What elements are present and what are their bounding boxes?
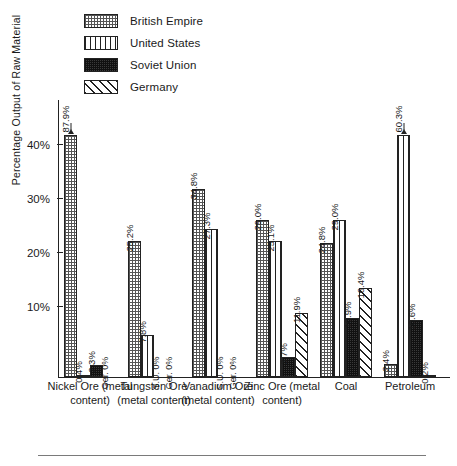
bar-be-5: 2.4% [384,364,397,377]
legend: British EmpireUnited StatesSoviet UnionG… [84,11,203,99]
bar-group-0: 87.9%0.4%2.3%Ger. 0%Nickel Ore (metal co… [64,100,116,377]
bar-group-2: 34.8%27.3%S.U. 0%Ger. 0%Vanadium Ore (me… [192,100,244,377]
bar-rect [205,229,218,377]
y-tick-label: 30% [27,193,50,205]
bar-ge-4: 16.4% [359,288,372,377]
bar-value-label: 25.1% [265,225,276,252]
bars: 25.2%7.8%S.U. 0%Ger. 0% [128,100,180,377]
footer-rule [38,455,426,456]
bar-us-5: 60.3% [397,135,410,377]
bar-rect [397,135,410,377]
bar-ge-5: 0.2% [423,376,436,377]
y-tick-label: 20% [27,247,50,259]
bar-value-label: 29.0% [252,204,263,231]
bar-ge-0: Ger. 0% [103,376,116,377]
legend-item-us: United States [84,33,203,52]
bar-rect [333,220,346,377]
bar-value-label: 11.9% [291,297,302,323]
bar-value-label: 3.7% [278,343,289,365]
legend-swatch-icon-ge [84,80,118,94]
y-tick-label: 40% [27,139,50,151]
y-tick-40%: 40% [27,135,58,153]
bar-be-1: 25.2% [128,241,141,377]
y-axis-line [58,100,59,378]
bar-ge-3: 11.9% [295,313,308,377]
bar-value-label: 10.9% [342,302,353,329]
bar-ge-1: Ger. 0% [167,376,180,377]
bar-rect [64,135,77,377]
legend-label: British Empire [130,15,203,27]
bar-be-0: 87.9% [64,135,77,377]
bar-value-label: 34.8% [188,173,199,200]
legend-label: Soviet Union [130,59,196,71]
bar-value-label: 2.3% [86,351,97,373]
bar-value-label: 24.8% [316,227,327,254]
bar-be-4: 24.8% [320,243,333,377]
bar-rect [320,243,333,377]
bar-value-label: 10.6% [406,303,417,330]
bar-su-3: 3.7% [282,357,295,377]
bar-value-label: 29.0% [329,204,340,231]
y-tick-30%: 30% [27,189,58,207]
clipped-bar-arrow-stem [403,123,404,130]
bars: 24.8%29.0%10.9%16.4% [320,100,372,377]
bar-us-4: 29.0% [333,220,346,377]
legend-swatch-icon-su [84,58,118,72]
legend-label: Germany [130,81,178,93]
bar-value-label: 16.4% [355,272,366,299]
legend-item-ge: Germany [84,77,203,96]
bar-group-5: 2.4%60.3%10.6%0.2%Petroleum [384,100,436,377]
y-tick-10%: 10% [27,297,58,315]
bar-value-label: 27.3% [201,213,212,240]
bar-rect [359,288,372,377]
bar-su-4: 10.9% [346,318,359,377]
bar-value-label: 25.2% [124,224,135,251]
bar-value-label: 2.4% [380,350,391,372]
bars: 87.9%0.4%2.3%Ger. 0% [64,100,116,377]
bar-us-2: 27.3% [205,229,218,377]
bars: 34.8%27.3%S.U. 0%Ger. 0% [192,100,244,377]
bar-group-3: 29.0%25.1%3.7%11.9%Zinc Ore (metal conte… [256,100,308,377]
y-tick-label: 10% [27,301,50,313]
x-axis-category-label: Petroleum [367,380,453,394]
y-axis-label: Percentage Output of Raw Material [10,0,22,230]
legend-swatch-icon-be [84,14,118,28]
y-tick-20%: 20% [27,243,58,261]
legend-item-su: Soviet Union [84,55,203,74]
chart-plot-area: Percentage Output of Raw Material 10%20%… [58,100,450,378]
bar-value-label: 7.8% [137,321,148,343]
legend-swatch-icon-us [84,36,118,50]
bar-rect [128,241,141,377]
bar-ge-2: Ger. 0% [231,376,244,377]
legend-label: United States [130,37,200,49]
clipped-bar-arrow-stem [70,123,71,130]
bars: 29.0%25.1%3.7%11.9% [256,100,308,377]
bar-group-4: 24.8%29.0%10.9%16.4%Coal [320,100,372,377]
x-axis-line [58,377,450,378]
bar-us-0: 0.4% [77,375,90,377]
bars: 2.4%60.3%10.6%0.2% [384,100,436,377]
legend-item-be: British Empire [84,11,203,30]
bar-group-1: 25.2%7.8%S.U. 0%Ger. 0%Tungsten Ore (met… [128,100,180,377]
